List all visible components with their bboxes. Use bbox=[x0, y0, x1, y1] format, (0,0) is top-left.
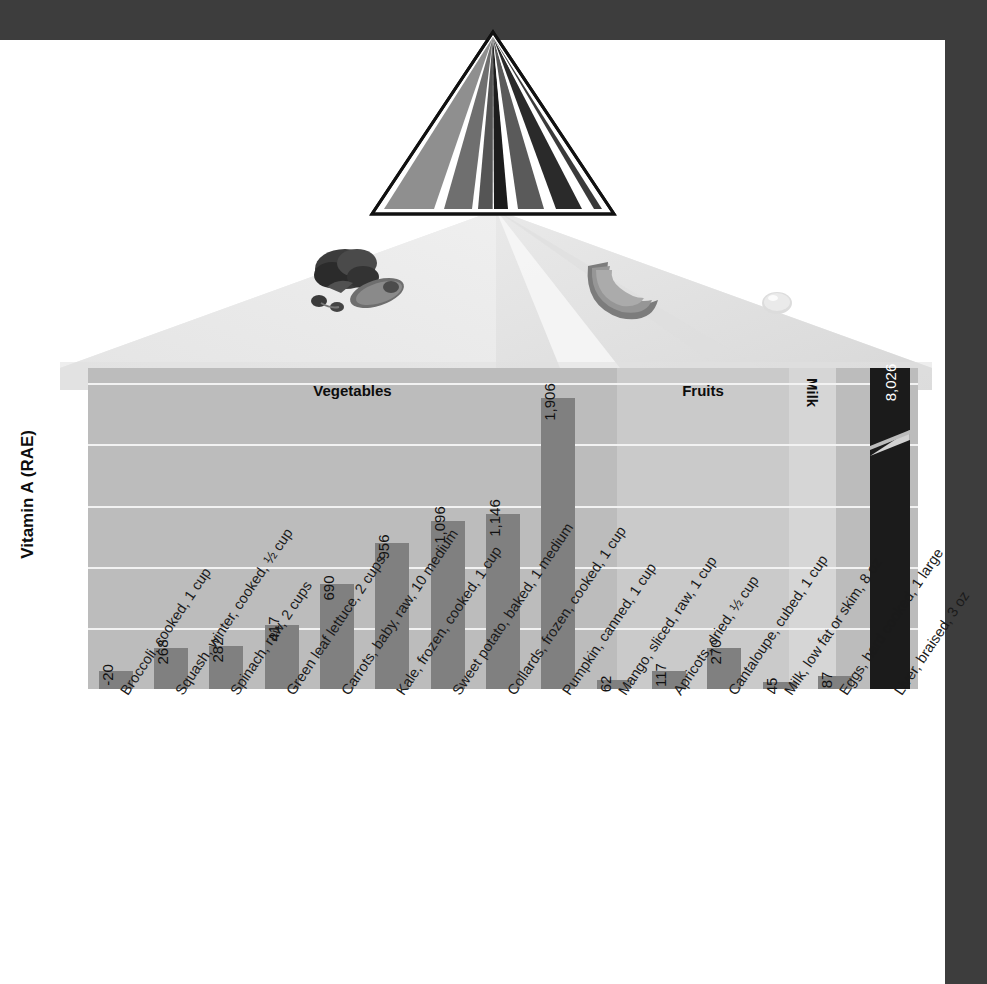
bar-value-label: 1,906 bbox=[541, 383, 558, 421]
y-axis-title: Vitamin A (RAE) bbox=[18, 430, 38, 559]
bar-value-label: 8,026 bbox=[882, 364, 899, 402]
pyramid-base-plate bbox=[60, 210, 932, 390]
gridline bbox=[88, 506, 918, 508]
bar-value-label: 1,146 bbox=[486, 499, 503, 537]
gridline bbox=[88, 444, 918, 446]
gridline bbox=[88, 383, 918, 385]
bar-value-label: 87 bbox=[818, 671, 835, 688]
axis-break-marker bbox=[870, 430, 910, 456]
bar-value-label: 690 bbox=[320, 575, 337, 600]
x-axis-labels: Broccoli, cooked, 1 cupSquash, winter, c… bbox=[0, 689, 945, 949]
fruit-photo bbox=[580, 248, 690, 328]
bar-value-label: 117 bbox=[652, 663, 669, 687]
bar-value-label: -20 bbox=[99, 664, 116, 686]
vegetables-photo bbox=[297, 243, 437, 333]
mypyramid-logo bbox=[368, 28, 618, 218]
milk-photo bbox=[760, 284, 794, 318]
frame-band-right bbox=[945, 0, 987, 984]
page-root: Vitamin A (RAE) Vegetables Fruits Milk M… bbox=[0, 0, 987, 984]
